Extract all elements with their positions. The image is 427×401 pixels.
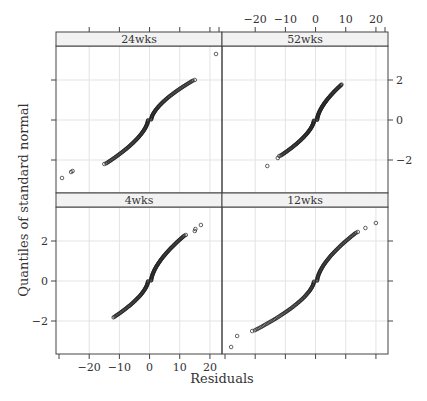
strip-label: 24wks [121, 33, 157, 46]
strip-label: 52wks [287, 33, 323, 46]
x-tick-label: 10 [339, 13, 353, 26]
x-axis-label: Residuals [190, 371, 254, 386]
y-tick-label: −2 [32, 315, 48, 328]
y-tick-label: −2 [396, 154, 412, 167]
y-tick-label: 2 [41, 235, 48, 248]
x-tick-label: 10 [173, 361, 187, 374]
qq-plot-trellis: 24wks52wks4wks12wks −20−20−10−1000101020… [0, 0, 427, 401]
x-tick-label: 20 [369, 13, 383, 26]
y-tick-label: 2 [396, 74, 403, 87]
x-tick-label: −10 [108, 361, 131, 374]
y-tick-label: 0 [41, 275, 48, 288]
x-tick-label: −20 [78, 361, 101, 374]
strip-label: 4wks [125, 194, 154, 207]
strip-label: 12wks [287, 194, 323, 207]
x-tick-label: 0 [312, 13, 319, 26]
y-axis-label: Quantiles of standard normal [16, 103, 31, 296]
x-tick-label: −20 [244, 13, 267, 26]
x-tick-label: −10 [274, 13, 297, 26]
x-tick-label: 0 [146, 361, 153, 374]
y-tick-label: 0 [396, 114, 403, 127]
